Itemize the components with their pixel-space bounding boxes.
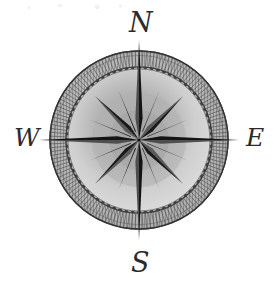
compass-rose-figure: N E S W — [0, 0, 279, 291]
cardinal-label-west: W — [14, 125, 40, 150]
cardinal-label-east: E — [246, 125, 264, 150]
cardinal-label-south: S — [131, 249, 150, 276]
compass-center-pin — [137, 138, 140, 141]
cardinal-label-north: N — [129, 9, 153, 36]
